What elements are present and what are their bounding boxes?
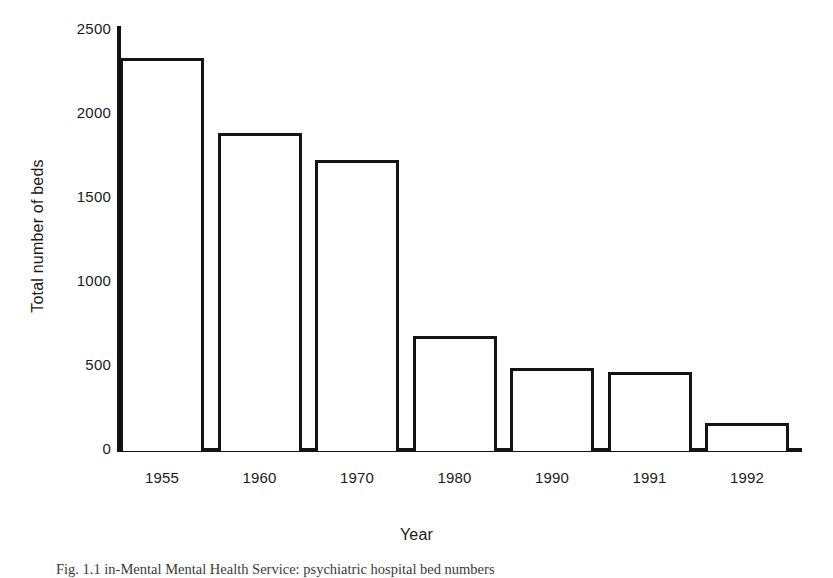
y-tick-label: 1000	[59, 273, 111, 288]
bar	[120, 58, 204, 451]
chart-plot-area: 05001000150020002500 1955196019701980199…	[0, 0, 833, 460]
y-tick-label: 2500	[59, 21, 111, 36]
figure-caption: Fig. 1.1 in-Mental Mental Health Service…	[56, 561, 816, 578]
x-tick-label: 1970	[317, 470, 397, 486]
x-axis-title: Year	[0, 526, 833, 544]
bar	[218, 133, 302, 451]
y-tick-label: 500	[59, 357, 111, 372]
x-tick-label: 1990	[512, 470, 592, 486]
x-tick-label: 1960	[220, 470, 300, 486]
bar	[510, 368, 594, 451]
y-axis-title: Total number of beds	[30, 136, 46, 336]
bar	[413, 336, 497, 451]
bar	[315, 160, 399, 451]
x-tick-label: 1992	[707, 470, 787, 486]
x-tick-label: 1991	[610, 470, 690, 486]
y-tick-label: 0	[59, 441, 111, 456]
bar	[705, 423, 789, 451]
x-tick-label: 1955	[122, 470, 202, 486]
x-tick-label: 1980	[415, 470, 495, 486]
bar	[608, 372, 692, 451]
y-tick-label: 2000	[59, 105, 111, 120]
y-tick-label: 1500	[59, 189, 111, 204]
